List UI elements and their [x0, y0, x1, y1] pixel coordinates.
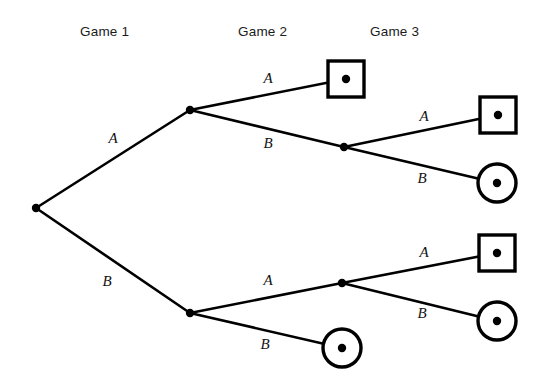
node-dot-t1: [342, 75, 350, 83]
nodes-layer: [32, 61, 516, 367]
edge-label-e10: B: [417, 305, 426, 322]
tree-edge-e2: [36, 208, 190, 313]
edge-label-e2: B: [102, 273, 111, 290]
node-dot-t3: [493, 179, 501, 187]
stage-header-3: Game 3: [370, 24, 419, 39]
edge-label-e1: A: [108, 130, 117, 147]
edge-label-e5: A: [419, 108, 428, 125]
node-dot-root: [32, 204, 40, 212]
game-tree-figure: Game 1Game 2Game 3 ABABABABAB: [0, 0, 543, 392]
edge-label-e3: A: [263, 70, 272, 87]
edge-label-e4: B: [263, 135, 272, 152]
node-dot-g2-down: [186, 309, 194, 317]
edges-layer: [36, 79, 498, 348]
node-dot-t6: [338, 344, 346, 352]
node-dot-g3-down: [338, 279, 346, 287]
node-dot-t2: [494, 111, 502, 119]
stage-header-1: Game 1: [80, 24, 129, 39]
edge-label-e9: A: [419, 244, 428, 261]
node-dot-t4: [493, 249, 501, 257]
stage-header-2: Game 2: [238, 24, 287, 39]
node-dot-t5: [493, 317, 501, 325]
node-dot-g2-up: [186, 106, 194, 114]
edge-label-e8: B: [260, 336, 269, 353]
game-tree-canvas: [0, 0, 543, 392]
tree-edge-e1: [36, 110, 190, 208]
node-dot-g3-up: [340, 143, 348, 151]
edge-label-e6: B: [417, 170, 426, 187]
edge-label-e7: A: [263, 272, 272, 289]
